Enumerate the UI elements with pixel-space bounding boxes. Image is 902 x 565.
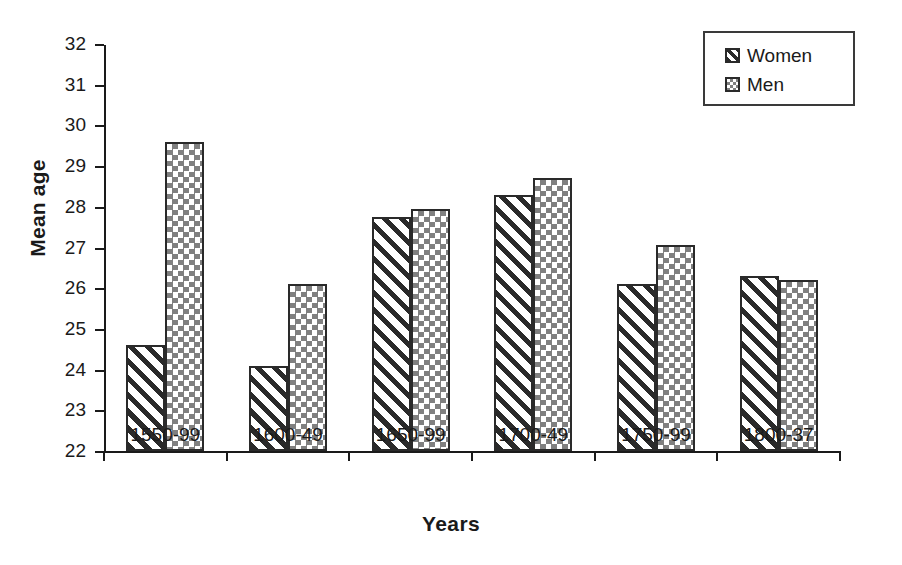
legend-item-women: Women bbox=[725, 41, 853, 70]
bar-men-1650-99 bbox=[411, 209, 450, 451]
x-tick-label: 1750-99 bbox=[621, 424, 691, 446]
legend-swatch-women-icon bbox=[725, 48, 740, 63]
x-tick-label: 1650-99 bbox=[376, 424, 446, 446]
x-tick-mark bbox=[839, 451, 841, 461]
y-tick-mark bbox=[95, 85, 104, 87]
bar-men-1700-49 bbox=[533, 178, 572, 451]
y-tick-label: 22 bbox=[44, 440, 86, 462]
x-axis-title: Years bbox=[0, 512, 902, 536]
x-tick-label: 1700-49 bbox=[498, 424, 568, 446]
y-tick-label: 31 bbox=[44, 74, 86, 96]
y-tick-mark bbox=[95, 44, 104, 46]
y-tick-label: 30 bbox=[44, 114, 86, 136]
bar-men-1750-99 bbox=[656, 245, 695, 451]
y-axis-line bbox=[104, 45, 106, 453]
legend-label-women: Women bbox=[747, 46, 812, 65]
chart-legend: Women Men bbox=[703, 31, 855, 106]
plot-area: 3231302928272625242322 bbox=[104, 45, 840, 452]
y-tick-mark bbox=[95, 288, 104, 290]
y-tick-mark bbox=[95, 410, 104, 412]
y-tick-label: 27 bbox=[44, 237, 86, 259]
y-tick-mark bbox=[95, 166, 104, 168]
x-tick-mark bbox=[716, 451, 718, 461]
y-tick-label: 24 bbox=[44, 359, 86, 381]
x-tick-label: 1800-37 bbox=[744, 424, 814, 446]
x-tick-mark bbox=[103, 451, 105, 461]
y-tick-label: 26 bbox=[44, 277, 86, 299]
legend-swatch-men-icon bbox=[725, 77, 740, 92]
y-tick-label: 28 bbox=[44, 196, 86, 218]
x-tick-label: 1550-99 bbox=[130, 424, 200, 446]
legend-item-men: Men bbox=[725, 70, 853, 99]
bar-women-1700-49 bbox=[494, 195, 533, 451]
y-tick-label: 23 bbox=[44, 399, 86, 421]
legend-label-men: Men bbox=[747, 75, 784, 94]
y-tick-mark bbox=[95, 329, 104, 331]
x-tick-mark bbox=[348, 451, 350, 461]
y-tick-mark bbox=[95, 370, 104, 372]
x-tick-mark bbox=[226, 451, 228, 461]
y-tick-label: 32 bbox=[44, 33, 86, 55]
bar-men-1550-99 bbox=[165, 142, 204, 451]
y-tick-mark bbox=[95, 248, 104, 250]
bar-chart-figure: Mean age 3231302928272625242322 1550-991… bbox=[0, 0, 902, 565]
y-tick-mark bbox=[95, 207, 104, 209]
x-tick-label: 1600-49 bbox=[253, 424, 323, 446]
y-tick-mark bbox=[95, 125, 104, 127]
x-tick-mark bbox=[594, 451, 596, 461]
y-tick-label: 25 bbox=[44, 318, 86, 340]
bar-women-1650-99 bbox=[372, 217, 411, 451]
y-tick-label: 29 bbox=[44, 155, 86, 177]
x-tick-mark bbox=[471, 451, 473, 461]
